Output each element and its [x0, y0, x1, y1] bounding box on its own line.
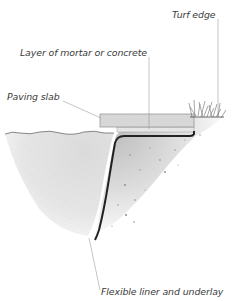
leader-liner: [89, 238, 100, 290]
mortar-layer: [117, 127, 194, 132]
pond-edge-diagram: [0, 0, 232, 301]
label-paving-slab: Paving slab: [7, 91, 60, 102]
water: [5, 131, 114, 236]
soil: [96, 117, 222, 232]
turf-edge: [189, 100, 226, 118]
paving-slab: [100, 114, 194, 127]
label-turf-edge: Turf edge: [172, 9, 215, 20]
label-mortar-layer: Layer of mortar or concrete: [20, 47, 147, 58]
leader-slab: [63, 101, 101, 118]
label-flexible-liner: Flexible liner and underlay: [101, 286, 223, 297]
